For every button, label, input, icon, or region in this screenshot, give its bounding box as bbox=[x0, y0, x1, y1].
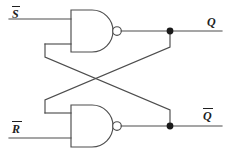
nand-gate-bottom-body bbox=[71, 105, 113, 147]
logic-circuit-schematic bbox=[0, 0, 231, 156]
nand-gate-top-bubble-icon bbox=[113, 27, 122, 36]
wire-cross-qbar-to-top-input bbox=[45, 44, 170, 126]
wire-cross-q-to-bottom-input bbox=[45, 31, 170, 113]
output-label-q-bar: Q bbox=[203, 109, 212, 122]
nand-gate-bottom-bubble-icon bbox=[113, 122, 122, 131]
nand-gate-top-body bbox=[71, 10, 113, 52]
input-label-r-bar: R bbox=[12, 122, 20, 135]
output-label-q-text: Q bbox=[207, 15, 216, 29]
input-label-s-bar: S bbox=[12, 7, 19, 20]
output-label-q-bar-text: Q bbox=[203, 109, 212, 122]
junction-dot-qbar bbox=[167, 123, 174, 130]
junction-dot-q bbox=[167, 28, 174, 35]
input-label-s-bar-text: S bbox=[12, 7, 19, 20]
schematic-canvas: S R Q Q bbox=[0, 0, 231, 156]
input-label-r-bar-text: R bbox=[12, 122, 20, 135]
output-label-q: Q bbox=[207, 16, 216, 28]
